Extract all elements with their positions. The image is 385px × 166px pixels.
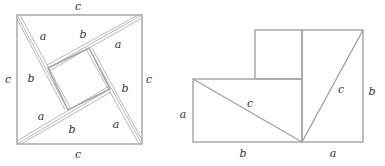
right-figure: c c a b b a [180,30,376,160]
label-b: b [27,72,34,85]
label-a: a [38,110,45,123]
hypotenuse-right [302,30,363,142]
label-c-right: c [338,83,344,96]
label-a: a [113,118,120,131]
label-top-c: c [75,0,81,13]
label-a: a [115,38,122,51]
label-left-c: c [5,73,11,86]
label-b: b [79,28,86,41]
small-square [255,30,302,79]
pythagorean-proof-diagram: c c c c a b a b b a b a c c a b b a [0,0,385,166]
inner-square [48,48,110,110]
label-right-c: c [146,73,152,86]
triangle-bottom-left [17,86,111,144]
label-b: b [121,82,128,95]
label-bottom-c: c [75,148,81,161]
label-c-left: c [247,97,253,110]
label-a-left: a [180,108,187,121]
left-figure: c c c c a b a b b a b a [5,0,152,161]
label-b-right: b [368,85,375,98]
label-b-bottom: b [239,147,246,160]
triangle-top-right [47,15,142,71]
hypotenuse-left [193,79,302,142]
label-a: a [40,30,47,43]
label-a-bottom: a [330,147,337,160]
label-b: b [68,123,75,136]
